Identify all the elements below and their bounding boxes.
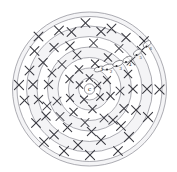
marker-dot-5 (136, 54, 138, 56)
marker-dot-6 (146, 46, 148, 48)
marker-dot-1 (98, 66, 100, 68)
marker-dot-2 (106, 69, 108, 71)
concentric-shell-diagram: 123456 c (0, 0, 177, 172)
figure-container: 123456 c (0, 0, 177, 172)
marker-dot-3 (116, 65, 118, 67)
center-label: c (88, 85, 91, 93)
marker-dot-4 (125, 61, 127, 63)
